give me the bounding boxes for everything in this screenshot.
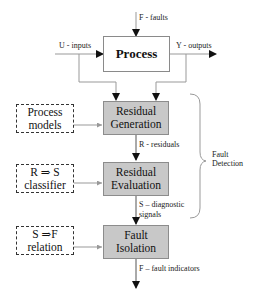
process-models-block: Processmodels xyxy=(16,104,74,133)
faults-label: F - faults xyxy=(139,14,168,23)
residual-generation-block: ResidualGeneration xyxy=(103,101,169,135)
fault-isolation-block: FaultIsolation xyxy=(103,225,169,259)
process-label: Process xyxy=(116,47,158,62)
fault-indicators-label: F – fault indicators xyxy=(139,265,200,274)
residuals-label: R - residuals xyxy=(139,141,179,150)
inputs-label: U - inputs xyxy=(59,42,91,51)
fault-detection-brace xyxy=(190,94,206,218)
outputs-label: Y - outputs xyxy=(176,42,212,51)
relation-block: S ⇒Frelation xyxy=(16,226,74,255)
aux-label-line1: R ⇒ S xyxy=(30,166,59,178)
stage-label-line1: Residual xyxy=(116,105,156,117)
aux-label-line2: models xyxy=(28,119,61,131)
aux-label-line2: classifier xyxy=(24,179,66,191)
stage-label-line1: Fault xyxy=(124,229,148,241)
stage-label-line2: Isolation xyxy=(116,242,156,254)
brace-label-line1: Fault xyxy=(212,150,228,159)
aux-label-line2: relation xyxy=(27,241,62,253)
fault-detection-label: Fault Detection xyxy=(212,151,243,169)
aux-label-line1: S ⇒F xyxy=(32,228,57,240)
diagnostic-label-line2: signals xyxy=(139,211,161,220)
stage-label-line2: Generation xyxy=(110,118,161,130)
diagnostic-label-line1: S – diagnostic xyxy=(139,201,184,210)
stage-label-line1: Residual xyxy=(116,166,156,178)
classifier-block: R ⇒ Sclassifier xyxy=(16,164,74,193)
process-block: Process xyxy=(103,36,170,72)
brace-label-line2: Detection xyxy=(212,159,243,168)
residual-evaluation-block: ResidualEvaluation xyxy=(103,162,169,196)
stage-label-line2: Evaluation xyxy=(111,179,161,191)
aux-label-line1: Process xyxy=(27,106,62,118)
